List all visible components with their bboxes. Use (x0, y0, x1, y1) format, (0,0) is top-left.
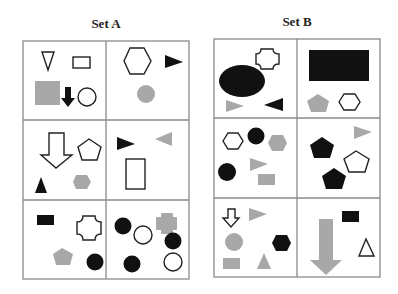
outline-cross-icon (256, 49, 279, 69)
black-hexagon-icon (272, 235, 291, 251)
outline-rectangle-icon (73, 57, 90, 68)
black-pentagon-icon (322, 168, 346, 189)
gray-left-triangle-icon (155, 132, 172, 146)
set-b-cell-2-1 (218, 128, 287, 186)
outline-circle-icon (164, 253, 182, 271)
set-a-cell-3-2 (115, 214, 183, 273)
shape-sets-diagram (0, 0, 398, 294)
outline-pentagon-icon (344, 151, 369, 172)
gray-right-triangle-icon (226, 100, 244, 112)
black-triangle-icon (35, 177, 47, 193)
black-circle-icon (124, 256, 141, 273)
outline-down-arrow-icon (41, 133, 72, 168)
gray-hexagon-icon (73, 175, 91, 189)
outline-tall-rectangle-icon (126, 159, 145, 189)
black-large-rectangle-icon (309, 50, 369, 81)
black-pentagon-icon (310, 137, 334, 158)
outline-hexagon-icon (223, 133, 243, 149)
outline-down-arrow-icon (223, 209, 239, 227)
gray-right-triangle-icon (354, 126, 372, 139)
black-circle-icon (218, 163, 236, 181)
outline-triangle-icon (359, 239, 374, 256)
black-circle-icon (115, 218, 132, 235)
gray-pentagon-icon (53, 248, 73, 265)
set-b-cell-1-1 (219, 49, 283, 112)
gray-hexagon-icon (268, 135, 287, 151)
set-a-cell-3-1 (37, 215, 104, 271)
gray-square-icon (35, 81, 60, 105)
gray-circle-icon (225, 233, 243, 251)
black-ellipse-icon (219, 65, 265, 97)
black-circle-icon (87, 254, 104, 271)
gray-triangle-icon (257, 253, 271, 269)
gray-rectangle-icon (223, 258, 240, 269)
set-a-cell-1-1 (35, 52, 96, 107)
outline-pentagon-icon (78, 139, 101, 160)
gray-pentagon-icon (307, 94, 329, 112)
gray-right-triangle-icon (250, 158, 268, 171)
outline-circle-icon (134, 226, 152, 244)
gray-circle-icon (137, 85, 155, 103)
black-circle-icon (248, 128, 265, 145)
black-down-arrow-icon (61, 87, 75, 107)
gray-right-triangle-icon (249, 208, 267, 221)
black-right-triangle-icon (117, 137, 135, 150)
gray-rectangle-icon (258, 174, 275, 185)
gray-down-arrow-icon (310, 219, 342, 275)
black-rectangle-icon (342, 211, 359, 222)
black-rectangle-icon (37, 215, 54, 225)
gray-cross-icon (157, 214, 176, 233)
outline-circle-icon (78, 88, 96, 106)
black-left-triangle-icon (264, 98, 283, 111)
outline-cross-icon (77, 216, 101, 240)
set-b-cell-2-2 (310, 126, 372, 189)
black-circle-icon (165, 233, 182, 250)
outline-hexagon-icon (124, 48, 151, 74)
set-a-cell-2-1 (35, 133, 101, 193)
set-b-cell-3-2 (310, 211, 374, 275)
outline-triangle-down-icon (42, 52, 54, 70)
set-a-cell-2-2 (117, 132, 172, 189)
set-b-cell-1-2 (307, 50, 369, 112)
set-a-cell-1-2 (124, 48, 183, 103)
outline-hexagon-icon (339, 94, 360, 110)
black-right-triangle-icon (165, 55, 183, 68)
set-b-cell-3-1 (223, 208, 291, 269)
